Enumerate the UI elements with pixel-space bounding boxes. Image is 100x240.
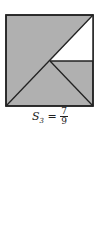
formula-label: S xyxy=(32,110,40,123)
denominator: 9 xyxy=(60,117,68,126)
area-formula: S3 = 7 9 xyxy=(0,107,100,126)
formula-subscript: 3 xyxy=(40,117,44,125)
equals-sign: = xyxy=(48,110,57,123)
fraction: 7 9 xyxy=(60,107,68,126)
